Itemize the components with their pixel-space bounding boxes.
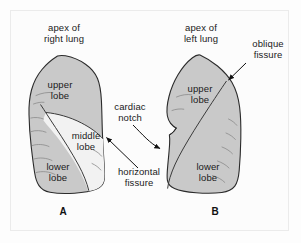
label-upper-lobe-right: upper lobe bbox=[38, 79, 82, 101]
label-oblique-fissure: oblique fissure bbox=[240, 38, 296, 60]
panel-letter-a: A bbox=[52, 206, 74, 217]
panel-letter-b: B bbox=[204, 206, 226, 217]
lung-anatomy-figure: apex of right lung apex of left lung obl… bbox=[0, 0, 301, 243]
label-horizontal-fissure: horizontal fissure bbox=[108, 166, 170, 188]
label-upper-lobe-left: upper lobe bbox=[178, 83, 222, 105]
label-middle-lobe-right: middle lobe bbox=[62, 130, 110, 152]
label-lower-lobe-left: lower lobe bbox=[186, 161, 230, 183]
label-apex-right-lung: apex of right lung bbox=[28, 22, 100, 44]
label-lower-lobe-right: lower lobe bbox=[36, 161, 80, 183]
label-cardiac-notch: cardiac notch bbox=[104, 101, 156, 123]
horizontal-fissure-arrow bbox=[107, 138, 139, 169]
oblique-fissure-arrow bbox=[229, 63, 247, 80]
cardiac-notch-arrow bbox=[133, 125, 160, 149]
label-apex-left-lung: apex of left lung bbox=[165, 22, 237, 44]
